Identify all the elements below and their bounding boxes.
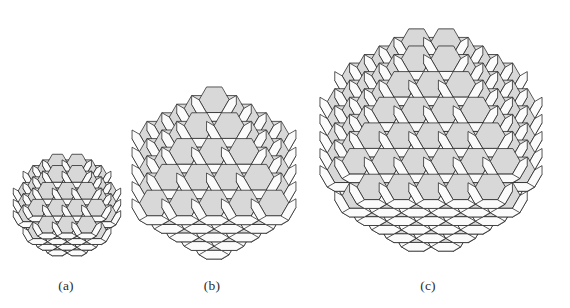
packing-cluster-b — [128, 85, 300, 261]
panel-caption-a: (a) — [26, 279, 106, 293]
hexagonal-face — [77, 244, 97, 250]
hexagonal-face — [431, 208, 461, 217]
hexagonal-face — [57, 233, 77, 239]
cell-face-group — [13, 154, 120, 255]
hexagonal-face — [77, 233, 97, 239]
cell-face-group — [132, 87, 296, 259]
hexagonal-face — [416, 200, 446, 209]
hexagonal-face — [416, 217, 446, 226]
panel-caption-b: (b) — [172, 279, 252, 293]
hexagonal-face — [401, 243, 431, 252]
hexagonal-face — [387, 217, 417, 226]
cell-face-group — [320, 29, 542, 251]
hexagonal-face — [401, 225, 431, 234]
packing-diagram-c — [318, 20, 544, 260]
packing-cluster-a — [12, 148, 122, 262]
figure-root: (a)(b)(c) — [0, 0, 570, 308]
hexagonal-face — [357, 217, 387, 226]
hexagonal-face — [461, 225, 491, 234]
hexagonal-face — [342, 208, 372, 217]
hexagonal-face — [67, 239, 87, 245]
hexagonal-face — [475, 200, 505, 209]
hexagonal-face — [57, 244, 77, 250]
hexagonal-face — [431, 243, 461, 252]
hexagonal-face — [357, 200, 387, 209]
hexagonal-face — [431, 225, 461, 234]
hexagonal-face — [372, 225, 402, 234]
packing-cluster-c — [318, 20, 544, 260]
hexagonal-face — [372, 208, 402, 217]
hexagonal-face — [446, 200, 476, 209]
packing-diagram-a — [12, 148, 122, 262]
hexagonal-face — [461, 208, 491, 217]
hexagonal-face — [67, 250, 87, 256]
hexagonal-face — [416, 234, 446, 243]
packing-diagram-b — [128, 85, 300, 261]
hexagonal-face — [490, 208, 520, 217]
hexagonal-face — [38, 244, 58, 250]
hexagonal-face — [38, 233, 58, 239]
hexagonal-face — [47, 239, 67, 245]
hexagonal-face — [387, 234, 417, 243]
hexagonal-face — [446, 217, 476, 226]
hexagonal-face — [401, 208, 431, 217]
hexagonal-face — [387, 200, 417, 209]
hexagonal-face — [28, 239, 48, 245]
hexagonal-face — [446, 234, 476, 243]
panel-caption-c: (c) — [388, 279, 468, 293]
hexagonal-face — [47, 250, 67, 256]
hexagonal-face — [475, 217, 505, 226]
hexagonal-face — [87, 239, 107, 245]
